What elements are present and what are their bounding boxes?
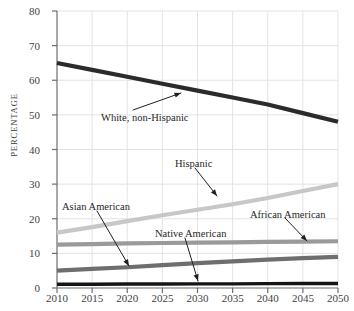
arrow-head	[123, 259, 129, 266]
series-annotation-label: African American	[250, 209, 326, 220]
series-annotation-label: Native American	[155, 228, 226, 239]
arrow-head	[174, 93, 181, 98]
series-annotation-label: Hispanic	[175, 158, 212, 169]
series-line	[57, 241, 338, 244]
arrow-head	[211, 189, 217, 196]
series-annotation-label: Asian American	[62, 201, 130, 212]
series-line	[57, 283, 338, 284]
gridlines	[57, 11, 338, 288]
tick-marks	[52, 11, 338, 293]
series-annotation-label: White, non-Hispanic	[101, 112, 188, 123]
arrow-head	[194, 274, 199, 281]
